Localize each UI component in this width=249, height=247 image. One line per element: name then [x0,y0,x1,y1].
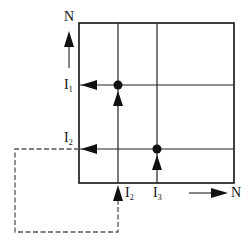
arrow-up-icon [152,155,162,170]
label-i3: I3 [153,186,162,202]
label-i1-sub: 1 [69,85,73,94]
axis-label-horizontal: N [231,186,241,200]
label-i2-left-sub: 2 [69,138,73,147]
label-i2-bottom-sub: 2 [130,193,134,202]
arrow-up-icon [64,31,74,47]
node-dot-1 [114,81,123,90]
arrow-left-icon [81,144,97,154]
arrow-up-icon [113,185,123,201]
label-i3-sub: 3 [158,193,162,202]
node-dot-2 [153,145,162,154]
arrow-up-icon [113,91,123,106]
arrow-right-icon [211,188,228,198]
label-i2-bottom: I2 [125,186,134,202]
feedback-dashed-path [15,149,118,232]
diagram-canvas [0,0,249,247]
label-i2-left: I2 [64,131,73,147]
axis-label-vertical: N [64,10,74,24]
arrow-left-icon [81,80,97,90]
label-i1: I1 [64,78,73,94]
